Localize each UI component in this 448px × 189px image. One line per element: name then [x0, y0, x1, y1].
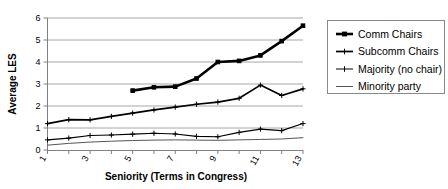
gridlines: [48, 18, 304, 128]
legend-item-label: Comm Chairs: [358, 28, 422, 40]
chart-legend: Comm ChairsSubcomm ChairsMajority (no ch…: [328, 21, 445, 94]
data-point-marker: [259, 54, 263, 58]
data-point-marker: [216, 60, 220, 64]
x-tick-label: 11: [248, 154, 261, 167]
data-point-marker: [131, 89, 135, 93]
data-point-marker: [301, 24, 305, 28]
y-axis-ticks: 0123456: [35, 13, 47, 155]
legend-swatch-marker: [343, 32, 347, 36]
legend-item-label: Majority (no chair): [358, 63, 442, 75]
series-1: [45, 83, 306, 127]
x-axis-ticks: 135791113: [37, 150, 304, 168]
y-tick-label: 6: [35, 13, 40, 23]
data-series-layer: [45, 24, 306, 145]
x-tick-label: 1: [37, 154, 48, 163]
y-tick-label: 4: [35, 57, 40, 67]
x-tick-label: 7: [165, 154, 176, 163]
data-point-marker: [195, 77, 199, 81]
data-point-marker: [237, 59, 241, 63]
x-axis-title: Seniority (Terms in Congress): [105, 171, 247, 182]
y-tick-label: 5: [35, 35, 40, 45]
legend-item-label: Minority party: [358, 80, 422, 92]
data-point-marker: [152, 86, 156, 90]
data-point-marker: [173, 85, 177, 89]
x-tick-label: 5: [122, 154, 133, 163]
series-3: [48, 138, 304, 145]
average-les-line-chart: Average LES 0123456 135791113 Seniority …: [0, 0, 448, 189]
chart-figure: Average LES 0123456 135791113 Seniority …: [0, 0, 448, 189]
x-tick-label: 3: [80, 154, 91, 163]
y-tick-label: 3: [35, 79, 40, 89]
data-point-marker: [280, 39, 284, 43]
x-tick-label: 9: [207, 154, 218, 163]
series-line: [48, 85, 304, 124]
clipped-caption: [0, 184, 448, 189]
y-tick-label: 2: [35, 101, 40, 111]
y-axis-title: Average LES: [7, 53, 18, 115]
series-0: [131, 24, 305, 93]
series-line: [133, 26, 303, 91]
x-tick-label: 13: [290, 154, 304, 168]
y-tick-label: 0: [35, 145, 40, 155]
legend-item-label: Subcomm Chairs: [358, 45, 439, 57]
y-tick-label: 1: [35, 123, 40, 133]
series-line: [48, 138, 304, 145]
